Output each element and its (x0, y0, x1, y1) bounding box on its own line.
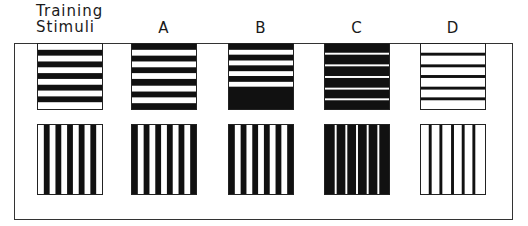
label-D: D (420, 20, 486, 36)
label-A: A (131, 20, 197, 36)
stimulus-C-vertical (324, 124, 390, 195)
stimulus-B-vertical (228, 124, 294, 195)
label-C: C (324, 20, 390, 36)
stimulus-A-vertical (131, 124, 197, 195)
stimulus-A-horizontal (131, 43, 197, 110)
label-B: B (228, 20, 294, 36)
stimulus-D-horizontal (420, 43, 486, 110)
stimulus-D-vertical (420, 124, 486, 195)
label-training-line2: Stimuli (36, 19, 146, 35)
stimulus-B-horizontal (228, 43, 294, 110)
stimulus-training-horizontal (37, 43, 103, 110)
stimulus-C-horizontal (324, 43, 390, 110)
stimulus-training-vertical (37, 124, 103, 195)
label-training-stimuli: Training Stimuli (36, 3, 146, 35)
label-training-line1: Training (36, 3, 146, 19)
